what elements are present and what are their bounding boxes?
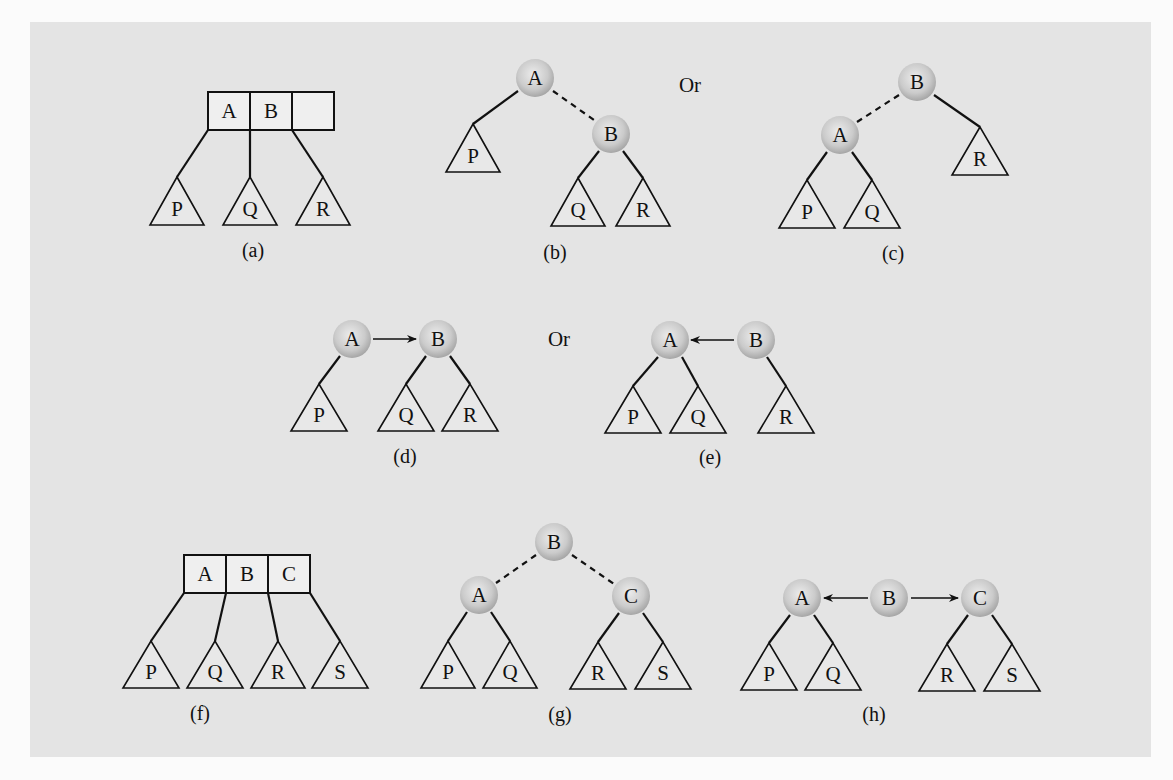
tree-node: C: [961, 579, 999, 617]
node-label: A: [527, 66, 543, 90]
node-label: C: [624, 584, 638, 608]
cell-key-label: B: [240, 562, 254, 586]
subtree-label: S: [1006, 663, 1018, 687]
subtree-label: Q: [207, 660, 222, 684]
tree-edge: [934, 95, 980, 127]
subtree-triangle: Q: [844, 180, 900, 228]
subtree-triangle: S: [984, 644, 1040, 691]
or-label: Or: [548, 327, 570, 351]
node-cell: [292, 92, 334, 130]
tree-node: C: [612, 577, 650, 615]
dashed-edge: [496, 555, 536, 583]
subtree-triangle: S: [312, 641, 368, 688]
tree-edge: [268, 593, 278, 641]
tree-node: A: [651, 321, 689, 359]
subfigure-caption: (h): [862, 703, 885, 726]
tree-node: B: [898, 63, 936, 101]
subtree-triangle: R: [952, 127, 1008, 175]
subtree-label: R: [271, 660, 285, 684]
subtree-label: P: [171, 197, 183, 221]
subtree-triangle: P: [741, 643, 797, 690]
subtree-label: R: [636, 198, 650, 222]
subtree-label: R: [973, 147, 987, 171]
subfigure-caption: (c): [882, 242, 904, 265]
subtree-label: P: [442, 660, 454, 684]
subtree-triangle: Q: [670, 386, 726, 433]
subtree-label: P: [467, 144, 479, 168]
tree-edge: [598, 613, 619, 642]
subtree-triangle: Q: [378, 384, 434, 431]
subfigure-e: PQRAB(e): [605, 321, 814, 469]
subtree-triangle: P: [779, 180, 835, 228]
subfigure-caption: (e): [699, 446, 721, 469]
cell-key-label: A: [197, 562, 213, 586]
subtree-triangle: P: [291, 384, 347, 431]
tree-node: A: [333, 320, 371, 358]
subtree-label: R: [591, 661, 605, 685]
subtree-label: Q: [825, 662, 840, 686]
tree-node: B: [870, 579, 908, 617]
tree-edge: [292, 130, 323, 177]
tree-node: B: [535, 523, 573, 561]
node-label: B: [910, 70, 924, 94]
subtree-label: Q: [570, 198, 585, 222]
tree-edge: [448, 612, 467, 641]
node-label: C: [973, 586, 987, 610]
tree-edge: [767, 357, 786, 386]
node-label: A: [662, 328, 678, 352]
cell-key-label: A: [221, 99, 237, 123]
multiway-node: ABC: [184, 555, 310, 593]
page: OrOrABPQR(a)PQRAB(b)RPQBA(c)PQRAB(d)PQRA…: [0, 0, 1173, 780]
dashed-edge: [572, 555, 614, 584]
tree-edge: [578, 151, 599, 178]
node-label: B: [431, 327, 445, 351]
subtree-label: P: [145, 660, 157, 684]
subtree-triangle: P: [123, 641, 179, 688]
tree-edge: [814, 615, 833, 643]
tree-edge: [643, 613, 663, 642]
subtree-triangle: R: [442, 384, 498, 431]
node-label: B: [749, 328, 763, 352]
tree-edge: [310, 593, 340, 641]
cell-key-label: C: [282, 562, 296, 586]
subtree-label: P: [313, 403, 325, 427]
subfigure-caption: (a): [242, 239, 264, 262]
dashed-edge: [857, 95, 899, 122]
subtree-triangle: P: [446, 124, 500, 172]
subtree-triangle: R: [758, 386, 814, 433]
subfigure-h: PQRSABC(h): [741, 579, 1040, 726]
subtree-triangle: Q: [223, 177, 277, 225]
subtree-triangle: R: [251, 641, 305, 688]
tree-edge: [491, 612, 510, 641]
subtree-triangle: Q: [805, 643, 861, 690]
tree-edge: [177, 130, 208, 177]
subtree-label: P: [627, 405, 639, 429]
subtree-label: Q: [502, 660, 517, 684]
node-label: A: [832, 123, 848, 147]
tree-edge: [947, 615, 968, 644]
subtree-label: R: [779, 405, 793, 429]
subtree-triangle: R: [570, 642, 626, 689]
subtree-label: S: [334, 660, 346, 684]
subfigure-g: PQRSBAC(g): [421, 523, 691, 726]
subfigure-caption: (b): [543, 241, 566, 264]
tree-node: A: [783, 579, 821, 617]
multiway-node: AB: [208, 92, 334, 130]
tree-edge: [473, 91, 518, 124]
tree-edge: [992, 615, 1012, 644]
subfigure-d: PQRAB(d): [291, 320, 498, 468]
tree-edge: [406, 356, 426, 384]
tree-edge: [319, 356, 340, 384]
or-label: Or: [679, 73, 701, 97]
tree-edge: [807, 152, 827, 180]
subtree-triangle: P: [605, 386, 661, 433]
node-label: B: [882, 586, 896, 610]
tree-edge: [623, 151, 643, 178]
subtree-label: P: [801, 200, 813, 224]
tree-edge: [852, 152, 872, 180]
subtree-label: R: [940, 663, 954, 687]
subfigure-f: ABCPQRS(f): [123, 555, 368, 725]
subtree-triangle: R: [296, 177, 350, 225]
subtree-label: Q: [242, 197, 257, 221]
subtree-label: S: [657, 661, 669, 685]
